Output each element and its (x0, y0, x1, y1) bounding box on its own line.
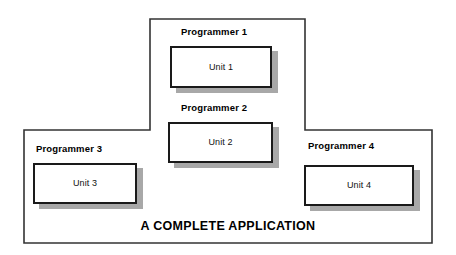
programmer-1-caption: Programmer 1 (181, 27, 247, 37)
application-title: A COMPLETE APPLICATION (24, 220, 432, 233)
unit-4-box[interactable]: Unit 4 (304, 165, 414, 206)
unit-4-label: Unit 4 (347, 181, 371, 190)
programmer-2-caption: Programmer 2 (181, 103, 247, 113)
unit-3-box[interactable]: Unit 3 (33, 163, 137, 204)
programmer-4-caption: Programmer 4 (308, 141, 374, 151)
unit-2-box[interactable]: Unit 2 (168, 122, 273, 163)
unit-1-box[interactable]: Unit 1 (170, 46, 272, 88)
unit-2-label: Unit 2 (208, 138, 232, 147)
unit-3-label: Unit 3 (73, 179, 97, 188)
diagram-canvas: Programmer 1 Unit 1 Programmer 2 Unit 2 … (0, 0, 456, 255)
programmer-3-caption: Programmer 3 (36, 144, 102, 154)
unit-1-label: Unit 1 (209, 63, 233, 72)
